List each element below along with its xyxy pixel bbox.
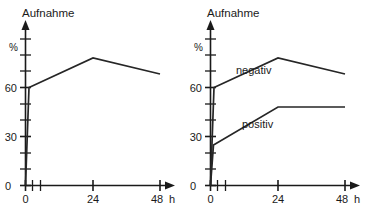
series-line-negativ (211, 58, 346, 186)
series-line-positiv (211, 107, 346, 186)
y-tick-label-0-right: 0 (190, 180, 196, 192)
x-tick-label-0-right: 0 (207, 193, 213, 205)
x-unit-label-right: h (354, 193, 360, 205)
series-label-negativ: negativ (236, 64, 272, 76)
series-label-positiv: positiv (242, 118, 274, 130)
x-tick-label-24-right: 24 (272, 193, 284, 205)
x-tick-label-0-left: 0 (22, 193, 28, 205)
y-tick-label-30-right: 30 (190, 131, 202, 143)
panel-left-y-unit: % (9, 42, 18, 53)
y-tick-label-0-left: 0 (5, 180, 11, 192)
series-line-aufnahme (26, 58, 161, 186)
y-axis-arrow-right (207, 20, 215, 30)
x-tick-label-48-left: 48 (151, 193, 163, 205)
panel-right-title: Aufnahme (207, 7, 259, 19)
x-axis-arrow-left (165, 182, 175, 190)
x-axis-arrow-right (350, 182, 360, 190)
chart-panel-left: Aufnahme % (0, 0, 186, 205)
figure-two-line-charts: Aufnahme % (0, 0, 371, 205)
panel-left-title: Aufnahme (22, 7, 74, 19)
y-tick-label-60-left: 60 (5, 82, 17, 94)
x-unit-label-left: h (169, 193, 175, 205)
y-tick-label-60-right: 60 (190, 82, 202, 94)
x-tick-label-48-right: 48 (336, 193, 348, 205)
y-axis-arrow-left (22, 20, 30, 30)
chart-panel-right: Aufnahme % (185, 0, 371, 205)
x-tick-label-24-left: 24 (87, 193, 99, 205)
panel-right-y-unit: % (194, 42, 203, 53)
y-tick-label-30-left: 30 (5, 131, 17, 143)
